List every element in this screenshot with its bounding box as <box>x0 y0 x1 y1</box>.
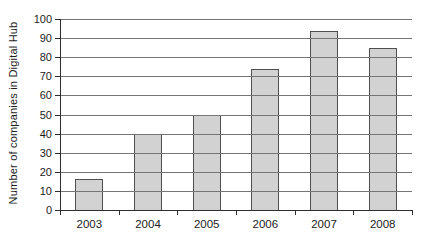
y-tick-label-0: 0 <box>20 204 52 216</box>
gridline-10 <box>60 191 412 192</box>
x-category-label-2005: 2005 <box>194 218 220 231</box>
y-tick-label-30: 30 <box>20 147 52 159</box>
x-category-label-2008: 2008 <box>370 218 396 231</box>
y-tick-label-80: 80 <box>20 51 52 63</box>
y-axis-title: Number of companies in Digital Hub <box>7 21 19 204</box>
x-category-label-2007: 2007 <box>311 218 337 231</box>
y-tick-label-60: 60 <box>20 89 52 101</box>
bar-2006 <box>251 69 279 210</box>
y-tick-label-20: 20 <box>20 166 52 178</box>
bar-chart-figure: Number of companies in Digital Hub 01020… <box>0 0 427 244</box>
gridline-30 <box>60 153 412 154</box>
gridline-50 <box>60 115 412 116</box>
gridline-70 <box>60 76 412 77</box>
y-tick-label-40: 40 <box>20 128 52 140</box>
gridline-80 <box>60 57 412 58</box>
y-tick-label-10: 10 <box>20 185 52 197</box>
y-axis-line <box>60 19 61 211</box>
x-axis-line <box>60 210 413 211</box>
gridline-100 <box>60 19 412 20</box>
x-category-label-2003: 2003 <box>77 218 103 231</box>
x-category-label-2006: 2006 <box>253 218 279 231</box>
y-tick-label-70: 70 <box>20 70 52 82</box>
y-tick-label-90: 90 <box>20 32 52 44</box>
gridline-40 <box>60 134 412 135</box>
gridline-90 <box>60 38 412 39</box>
gridline-60 <box>60 95 412 96</box>
x-category-label-2004: 2004 <box>135 218 161 231</box>
y-tick-label-100: 100 <box>20 13 52 25</box>
bar-2005 <box>193 115 221 211</box>
gridline-20 <box>60 172 412 173</box>
bar-2008 <box>369 48 397 210</box>
bar-2003 <box>75 179 103 210</box>
y-tick-label-50: 50 <box>20 109 52 121</box>
